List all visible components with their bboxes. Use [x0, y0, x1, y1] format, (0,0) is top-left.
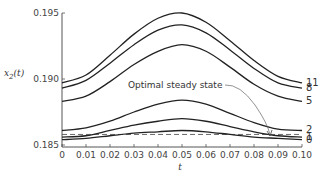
- chart: 0.1850.1900.195 00.010.020.030.040.050.0…: [0, 0, 322, 180]
- x-tick-label: 0.01: [76, 150, 96, 160]
- curve-label-8: 8: [306, 82, 312, 93]
- annotation-label: Optimal steady state: [128, 80, 223, 90]
- curves: [62, 13, 302, 140]
- x-tick-label: 0.03: [124, 150, 144, 160]
- x-ticks: 00.010.020.030.040.050.060.070.080.090.1…: [59, 144, 312, 160]
- y-tick-label: 0.185: [33, 140, 59, 150]
- curve-labels: 1185210: [306, 77, 319, 145]
- y-axis-title: x2(t): [4, 68, 25, 81]
- x-tick-label: 0.06: [196, 150, 216, 160]
- curve-label-0: 0: [306, 134, 312, 145]
- x-tick-label: 0.05: [172, 150, 192, 160]
- y-tick-label: 0.190: [33, 74, 59, 84]
- x-tick-label: 0.07: [220, 150, 240, 160]
- curve-8: [62, 25, 302, 88]
- y-ticks: 0.1850.1900.195: [33, 8, 65, 150]
- y-tick-label: 0.195: [33, 8, 59, 18]
- x-tick-label: 0.09: [268, 150, 288, 160]
- x-tick-label: 0.04: [148, 150, 168, 160]
- curve-2: [62, 100, 302, 130]
- curve-label-5: 5: [306, 95, 312, 106]
- svg-text:x2(t): x2(t): [4, 68, 25, 81]
- x-tick-label: 0: [59, 150, 65, 160]
- x-tick-label: 0.10: [292, 150, 312, 160]
- x-tick-label: 0.02: [100, 150, 120, 160]
- curve-0: [62, 130, 302, 139]
- x-tick-label: 0.08: [244, 150, 264, 160]
- x-axis-title: t: [178, 162, 182, 172]
